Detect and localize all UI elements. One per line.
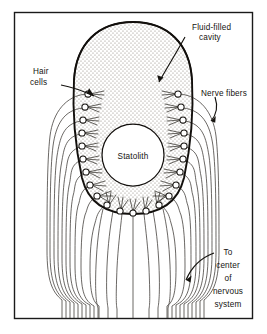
- hair-cell: [177, 169, 183, 175]
- hair-cell: [87, 182, 93, 188]
- hair-cell: [181, 143, 187, 149]
- hair-cell: [180, 156, 186, 162]
- hair-cell: [178, 104, 184, 110]
- label-statolith: Statolith: [118, 152, 149, 161]
- label-to-center-line5: system: [215, 300, 242, 309]
- hair-cell: [180, 117, 186, 123]
- label-to-center-line3: of: [224, 274, 232, 283]
- figure-canvas: Fluid-filled cavity Hair cells Nerve fib…: [0, 0, 267, 334]
- hair-cell: [83, 169, 89, 175]
- label-to-center-line4: nervous: [213, 287, 243, 296]
- hair-cell: [79, 143, 85, 149]
- hair-cell: [173, 182, 179, 188]
- hair-cell: [104, 202, 110, 208]
- hair-cell: [79, 130, 85, 136]
- label-hair-cells-line1: Hair: [33, 67, 49, 76]
- label-fluid-filled-cavity-line2: cavity: [199, 33, 222, 42]
- hair-cell: [143, 208, 149, 214]
- hair-cell: [82, 104, 88, 110]
- hair-cell: [181, 130, 187, 136]
- statocyst-figure: Fluid-filled cavity Hair cells Nerve fib…: [0, 0, 267, 334]
- label-to-center-line1: To: [224, 248, 233, 257]
- hair-cell: [130, 210, 136, 216]
- hair-cell: [80, 117, 86, 123]
- hair-cell: [80, 156, 86, 162]
- label-to-center-line2: center: [216, 261, 240, 270]
- hair-cell: [166, 193, 172, 199]
- label-fluid-filled-cavity-line1: Fluid-filled: [192, 23, 231, 32]
- hair-cell: [156, 202, 162, 208]
- label-hair-cells-line2: cells: [30, 78, 47, 87]
- hair-cell: [117, 208, 123, 214]
- hair-cell: [175, 91, 181, 97]
- label-nerve-fibers: Nerve fibers: [201, 89, 247, 98]
- hair-cell: [94, 193, 100, 199]
